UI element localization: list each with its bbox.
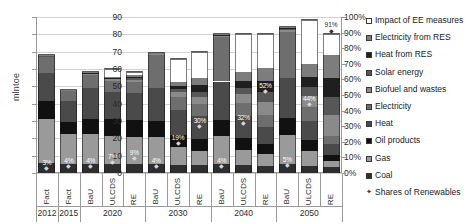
group-label: 2040 [211, 208, 277, 218]
bar-segment [104, 78, 121, 79]
bar-segment [191, 52, 208, 78]
legend-item[interactable]: Biofuel and wastes [376, 83, 466, 100]
bar-segment [323, 161, 340, 168]
bar-segment [235, 72, 252, 81]
legend-diamond-icon: ✦ [366, 189, 372, 195]
bar-segment [279, 28, 296, 29]
renewables-share-label: 19% [170, 135, 187, 142]
bar-top-edge [126, 71, 143, 72]
legend-item[interactable]: Electricity [376, 100, 466, 117]
y-axis-tick-mark [32, 69, 36, 70]
legend-item[interactable]: Oil products [376, 134, 466, 151]
bar-segment [301, 20, 318, 63]
bar-segment [279, 27, 296, 28]
secondary-y-axis-tick-label: 70% [344, 59, 374, 69]
legend-swatch-icon [366, 52, 372, 58]
legend-item-label: Electricity from RES [375, 32, 451, 42]
secondary-y-axis-tick-mark [342, 95, 346, 96]
category-label: RE [129, 194, 138, 205]
legend-swatch-icon [366, 35, 372, 41]
legend-item-label: Gas [375, 153, 391, 163]
bar-segment [148, 55, 165, 88]
group-separator [36, 206, 37, 222]
legend-swatch-icon [366, 70, 372, 76]
bar-segment [279, 118, 296, 135]
group-separator [276, 206, 277, 222]
legend-item-label: Impact of EE measures [375, 15, 463, 25]
bar-segment [257, 68, 274, 81]
bar-segment [323, 144, 340, 155]
category-label: BaU [151, 189, 160, 205]
legend-swatch-icon [366, 18, 372, 24]
bar-top-edge [148, 52, 165, 53]
secondary-y-axis-tick-mark [342, 79, 346, 80]
legend-item[interactable]: Impact of EE measures [376, 14, 466, 31]
category-separator [233, 173, 234, 206]
legend-item[interactable]: Heat [376, 117, 466, 134]
y-axis-tick-label: 10 [96, 151, 122, 161]
renewables-share-label: 30% [191, 118, 208, 125]
group-label: 2020 [80, 208, 146, 218]
y-axis-tick-mark [32, 104, 36, 105]
bar-segment [191, 104, 208, 116]
legend-item[interactable]: ✦Shares of Renewables [376, 186, 466, 203]
y-axis-label: mlntoe [11, 57, 21, 117]
bar-segment [148, 54, 165, 55]
legend-item[interactable]: Solar energy [376, 66, 466, 83]
renewables-share-marker: ◆ [176, 141, 181, 146]
secondary-y-axis-tick-mark [342, 111, 346, 112]
legend-item-label: Heat from RES [375, 49, 432, 59]
category-separator [189, 173, 190, 206]
secondary-y-axis-tick-mark [342, 64, 346, 65]
renewables-share-label: 3% [38, 160, 55, 167]
y-axis-tick-label: 80 [96, 29, 122, 39]
bar-segment [126, 72, 143, 75]
bar-segment [38, 101, 55, 119]
renewables-share-marker: ◆ [285, 163, 290, 168]
bar-segment [148, 53, 165, 54]
bar-segment [170, 92, 187, 97]
bar-segment [301, 121, 318, 140]
legend-swatch-icon [366, 138, 372, 144]
y-axis-tick-label: 70 [96, 47, 122, 57]
bar-segment [170, 147, 187, 165]
bar-segment [301, 77, 318, 87]
legend-item[interactable]: Heat from RES [376, 48, 466, 65]
category-label: BaU [282, 189, 291, 205]
renewables-share-marker: ◆ [154, 164, 159, 169]
category-separator [167, 173, 168, 206]
bar-segment [170, 89, 187, 92]
legend-item[interactable]: Coal [376, 169, 466, 186]
legend-item[interactable]: Gas [376, 152, 466, 169]
category-label: ULCDS [239, 178, 248, 205]
secondary-y-axis-tick-mark [342, 142, 346, 143]
bar-segment [213, 35, 230, 36]
bar-top-edge [257, 33, 274, 34]
y-axis-tick-mark [32, 138, 36, 139]
legend-swatch-icon [366, 104, 372, 110]
legend-item-label: Shares of Renewables [375, 187, 461, 197]
legend-swatch-icon [366, 87, 372, 93]
renewables-share-label: 9% [126, 150, 143, 157]
secondary-y-axis-tick-mark [342, 126, 346, 127]
bar-segment [235, 94, 252, 102]
renewables-share-label: 5% [279, 157, 296, 164]
category-label: ULCDS [173, 178, 182, 205]
category-separator [145, 173, 146, 206]
legend-item[interactable]: Electricity from RES [376, 31, 466, 48]
y-axis-tick-label: 60 [96, 64, 122, 74]
bar-segment [213, 37, 230, 81]
renewables-share-label: 44% [301, 96, 318, 103]
category-separator [298, 173, 299, 206]
bar-segment [191, 151, 208, 166]
bar-segment [257, 144, 274, 153]
bar-segment [213, 36, 230, 38]
bar-segment [279, 32, 296, 78]
bar-segment [104, 77, 121, 78]
bar-segment [301, 64, 318, 77]
bar-segment [170, 110, 187, 135]
category-separator [342, 173, 343, 206]
bar-top-edge [191, 51, 208, 52]
category-separator [36, 173, 37, 206]
bar-segment [126, 78, 143, 79]
